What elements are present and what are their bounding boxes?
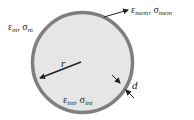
membrane-label: εmem, σmem bbox=[131, 5, 172, 17]
membrane-pointer-arrow bbox=[104, 10, 128, 17]
cell-diagram bbox=[0, 0, 194, 120]
radius-label: r bbox=[61, 58, 65, 69]
interior-eps-sub: int bbox=[67, 99, 74, 107]
interior-sigma-sub: int bbox=[85, 99, 92, 107]
membrane-sigma-sub: mem bbox=[159, 9, 172, 17]
thickness-label: d bbox=[132, 80, 138, 91]
thickness-arrow-inner bbox=[126, 90, 134, 98]
membrane-eps-sub: mem bbox=[135, 9, 148, 17]
medium-sigma-sub: m bbox=[28, 26, 33, 34]
interior-label: εint, σint bbox=[63, 95, 92, 107]
medium-label: εm, σm bbox=[8, 22, 33, 34]
